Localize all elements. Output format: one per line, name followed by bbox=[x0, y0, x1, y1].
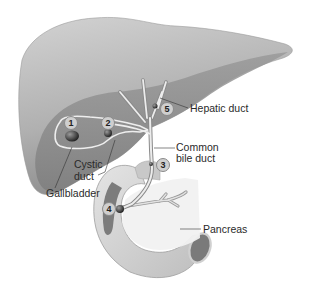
marker-2: 2 bbox=[101, 116, 115, 130]
label-common-bile-duct-line2: bile duct bbox=[176, 153, 215, 164]
biliary-anatomy-diagram: 1 2 3 4 5 Hepatic duct Common bile duct … bbox=[0, 0, 311, 293]
anatomy-illustration bbox=[0, 0, 311, 293]
label-hepatic-duct: Hepatic duct bbox=[190, 103, 248, 114]
stone-2 bbox=[104, 129, 112, 137]
label-gallbladder: Gallbladder bbox=[46, 188, 100, 199]
stone-3 bbox=[149, 162, 153, 166]
marker-4: 4 bbox=[102, 202, 116, 216]
label-pancreas: Pancreas bbox=[203, 224, 247, 235]
stone-4 bbox=[116, 205, 124, 213]
stone-1 bbox=[65, 131, 79, 142]
marker-5: 5 bbox=[160, 102, 174, 116]
stone-5 bbox=[153, 104, 158, 109]
marker-1: 1 bbox=[64, 116, 78, 130]
marker-3: 3 bbox=[156, 158, 170, 172]
label-cystic-duct-line1: Cystic bbox=[74, 159, 103, 170]
label-cystic-duct-line2: duct bbox=[74, 171, 94, 182]
